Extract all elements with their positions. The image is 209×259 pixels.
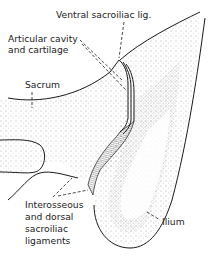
label-articular-cavity-line2: and cartilage — [8, 44, 69, 55]
label-interosseous-line3: sacroiliac — [25, 223, 68, 234]
interosseous-leader-2 — [58, 190, 88, 196]
sacrum-lower-outline — [8, 172, 78, 200]
label-interosseous-line1: Interosseous — [25, 199, 84, 210]
sacroiliac-joint-diagram: Ventral sacroiliac lig. Articular cavity… — [0, 0, 209, 259]
label-ilium: Ilium — [162, 216, 185, 227]
label-interosseous-line2: and dorsal — [25, 211, 73, 222]
label-interosseous-line4: ligaments — [25, 235, 71, 246]
label-ventral-sacroiliac-ligament: Ventral sacroiliac lig. — [56, 9, 151, 20]
label-sacrum: Sacrum — [25, 79, 60, 90]
label-articular-cavity-line1: Articular cavity — [8, 33, 78, 44]
ventral-ligament-leader — [119, 22, 124, 58]
